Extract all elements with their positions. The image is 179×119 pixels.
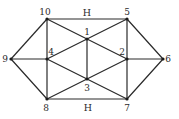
- edge-9-8: [11, 59, 47, 99]
- edge-5-1: [87, 19, 127, 39]
- edge-3-7: [87, 79, 127, 99]
- edge-3-2: [87, 59, 127, 79]
- node-5: [125, 17, 128, 20]
- node-10: [45, 17, 48, 20]
- node-label-4: 4: [48, 47, 54, 57]
- node-label-3: 3: [84, 83, 90, 93]
- node-label-10: 10: [39, 7, 51, 17]
- edge-8-3: [47, 79, 87, 99]
- edge-6-7: [127, 59, 163, 99]
- graph-diagram: 12345678910HH: [0, 0, 179, 119]
- node-8: [45, 97, 48, 100]
- node-4: [45, 57, 48, 60]
- edge-10-1: [47, 19, 87, 39]
- node-label-1: 1: [84, 27, 90, 37]
- node-9: [9, 57, 12, 60]
- node-2: [125, 57, 128, 60]
- node-label-8: 8: [43, 103, 49, 113]
- node-7: [125, 97, 128, 100]
- edge-5-6: [127, 19, 163, 59]
- edge-4-3: [47, 59, 87, 79]
- node-1: [85, 37, 88, 40]
- edge-label-h: H: [83, 7, 91, 18]
- node-label-2: 2: [119, 47, 125, 57]
- node-label-6: 6: [165, 54, 171, 64]
- node-label-7: 7: [124, 103, 130, 113]
- edge-label-h: H: [84, 102, 92, 113]
- node-6: [161, 57, 164, 60]
- node-3: [85, 77, 88, 80]
- edge-10-9: [11, 19, 47, 59]
- node-label-5: 5: [124, 7, 130, 17]
- node-label-9: 9: [2, 54, 8, 64]
